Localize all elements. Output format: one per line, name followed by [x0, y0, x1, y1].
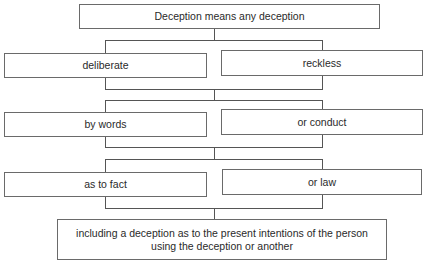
conclusion-box: including a deception as to the present …: [57, 219, 387, 260]
connector: [214, 89, 215, 100]
or-conduct-box: or conduct: [221, 109, 423, 135]
bracket-top: [105, 40, 323, 41]
conclusion-label: including a deception as to the present …: [72, 227, 372, 253]
connector: [214, 29, 215, 40]
reckless-label: reckless: [303, 57, 342, 70]
bracket-top: [105, 100, 323, 101]
or-conduct-label: or conduct: [297, 116, 346, 129]
by-words-box: by words: [4, 112, 207, 137]
bracket-top: [105, 159, 323, 160]
connector: [214, 208, 215, 219]
or-law-box: or law: [222, 169, 422, 195]
root-label: Deception means any deception: [154, 10, 304, 23]
deliberate-box: deliberate: [4, 53, 207, 78]
root-box: Deception means any deception: [79, 4, 380, 29]
by-words-label: by words: [84, 118, 126, 131]
as-to-fact-label: as to fact: [84, 178, 127, 191]
connector: [214, 147, 215, 159]
as-to-fact-box: as to fact: [4, 172, 207, 197]
deliberate-label: deliberate: [82, 59, 128, 72]
reckless-box: reckless: [221, 50, 423, 76]
or-law-label: or law: [308, 176, 336, 189]
